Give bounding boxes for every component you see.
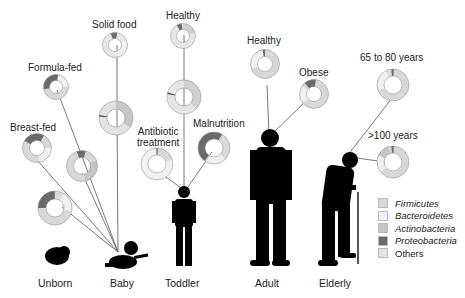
donut-antibiotic — [141, 148, 173, 180]
swatch-icon — [378, 211, 388, 221]
label-adult-healthy: Healthy — [247, 35, 281, 46]
label-65-to-80-years: 65 to 80 years — [360, 52, 423, 63]
stage-toddler: Toddler — [165, 277, 199, 289]
cane — [357, 192, 359, 264]
label-over-100-years: >100 years — [368, 130, 418, 141]
donut-solid-food — [103, 33, 128, 58]
donut-breast-fed — [22, 133, 52, 163]
legend-item-firmicutes: Firmicutes — [378, 197, 457, 210]
swatch-icon — [378, 248, 388, 258]
legend-item-actinobacteria: Actinobacteria — [378, 222, 457, 235]
legend: Firmicutes Bacteroidetes Actinobacteria … — [378, 197, 457, 260]
stage-adult: Adult — [255, 277, 279, 289]
donut-baby-2 — [67, 151, 98, 182]
donut-adult-healthy — [251, 50, 280, 79]
donut-toddler-healthy — [170, 23, 196, 49]
donut-obese — [299, 79, 330, 110]
swatch-icon — [378, 198, 388, 208]
label-formula-fed: Formula-fed — [28, 62, 82, 73]
stage-unborn: Unborn — [38, 277, 72, 289]
adult-silhouette — [250, 129, 292, 266]
stage-baby: Baby — [110, 277, 134, 289]
elderly-silhouette — [318, 152, 358, 266]
toddler-silhouette — [172, 186, 196, 266]
donut-baby-1 — [37, 190, 73, 226]
donut-elderly-100 — [375, 144, 410, 179]
label-solid-food: Solid food — [92, 19, 136, 30]
label-obese: Obese — [299, 67, 328, 78]
unborn-silhouette — [45, 246, 70, 265]
gut-microbiota-lifespan-diagram: Breast-fed Formula-fed Solid food Health… — [0, 0, 465, 298]
legend-item-others: Others — [378, 247, 457, 260]
legend-item-proteobacteria: Proteobacteria — [378, 235, 457, 248]
label-breast-fed: Breast-fed — [10, 122, 56, 133]
swatch-icon — [378, 223, 388, 233]
donut-formula-fed — [44, 75, 69, 100]
donut-baby-main — [99, 101, 133, 135]
legend-item-bacteroidetes: Bacteroidetes — [378, 210, 457, 223]
label-malnutrition: Malnutrition — [193, 118, 245, 129]
donut-malnutrition — [196, 130, 231, 165]
donut-elderly-65-80 — [377, 69, 409, 101]
swatch-icon — [378, 236, 388, 246]
label-antibiotic-treatment: Antibiotic treatment — [137, 126, 179, 148]
label-toddler-healthy: Healthy — [166, 10, 200, 21]
stage-elderly: Elderly — [319, 277, 351, 289]
